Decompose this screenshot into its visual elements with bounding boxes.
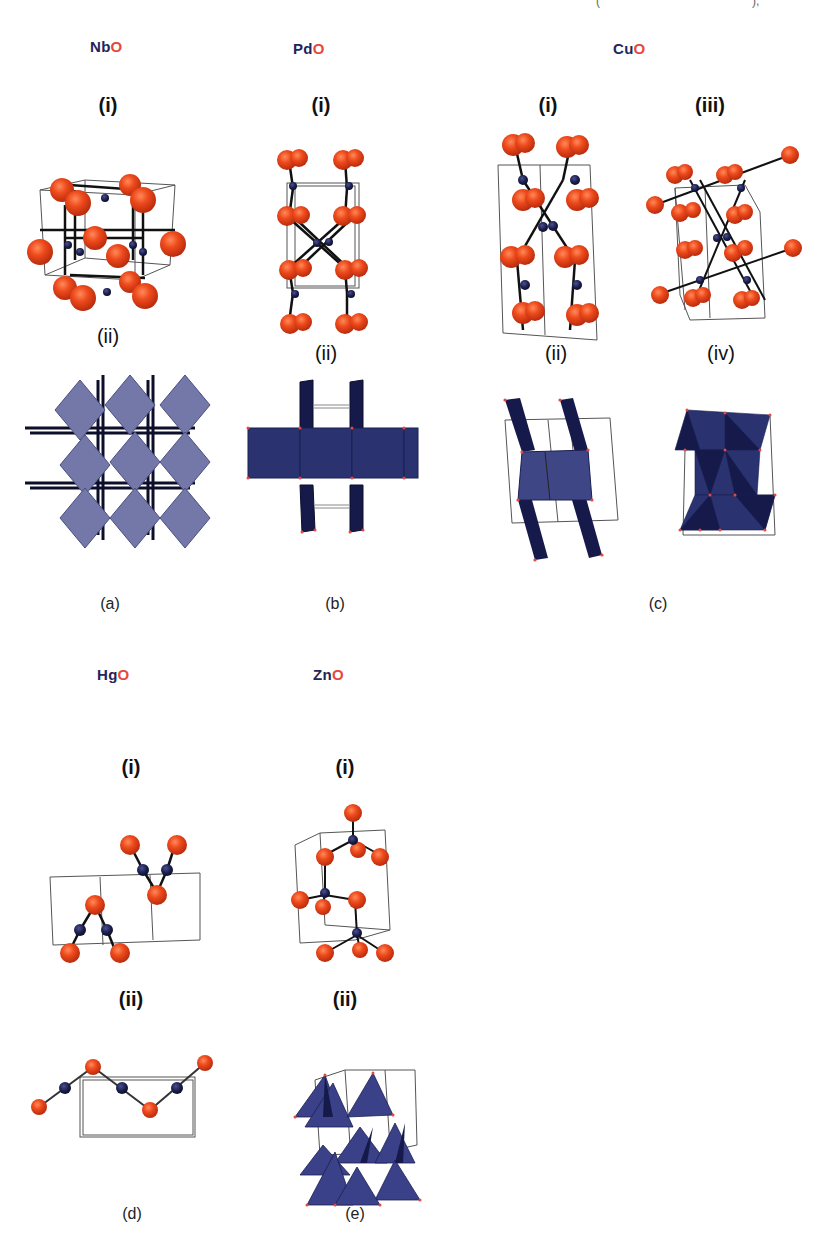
panel-label-e: (e) [335,1205,375,1223]
cuo-ball-and-stick-structure-iii [645,150,805,310]
metal-symbol: Cu [613,40,634,57]
oxygen-symbol: O [118,666,130,683]
compound-label-cuo: CuO [613,40,646,57]
oxygen-symbol: O [332,666,344,683]
panel-label-b: (b) [315,595,355,613]
cuo-polyhedral-structure-ii [500,400,620,560]
view-tag-cuo-iii: (iii) [680,94,740,117]
panel-label-d: (d) [112,1205,152,1223]
oxygen-symbol: O [313,40,325,57]
cuo-ball-and-stick-structure-i [495,135,605,325]
cropped-text-fragment-right: ), [752,0,759,8]
metal-symbol: Pd [293,40,313,57]
pdo-ball-and-stick-structure [275,148,375,333]
compound-label-pdo: PdO [293,40,325,57]
compound-label-zno: ZnO [313,666,344,683]
view-tag-zno-ii: (ii) [315,988,375,1011]
cuo-polyhedral-structure-iv [675,410,785,550]
compound-label-hgo: HgO [97,666,130,683]
view-tag-pdo-i: (i) [291,94,351,117]
view-tag-nbo-i: (i) [78,94,138,117]
compound-label-nbo: NbO [90,38,123,55]
zno-polyhedral-structure [295,1035,425,1175]
metal-symbol: Nb [90,38,111,55]
cropped-text-fragment-left: ( [596,0,600,8]
view-tag-cuo-ii: (ii) [526,342,586,365]
view-tag-cuo-i: (i) [518,94,578,117]
view-tag-nbo-ii: (ii) [78,325,138,348]
nbo-polyhedral-structure [25,370,195,540]
oxygen-symbol: O [634,40,646,57]
hgo-chain-structure [25,1055,225,1135]
oxygen-symbol: O [111,38,123,55]
view-tag-hgo-i: (i) [101,756,161,779]
panel-label-a: (a) [90,595,130,613]
pdo-polyhedral-structure [245,380,420,540]
metal-symbol: Hg [97,666,118,683]
nbo-ball-and-stick-structure [25,160,195,300]
view-tag-hgo-ii: (ii) [101,988,161,1011]
metal-symbol: Zn [313,666,332,683]
view-tag-pdo-ii: (ii) [296,342,356,365]
hgo-ball-and-stick-structure [45,835,215,945]
view-tag-cuo-iv: (iv) [691,342,751,365]
zno-ball-and-stick-structure [285,805,400,960]
view-tag-zno-i: (i) [315,756,375,779]
panel-label-c: (c) [638,595,678,613]
